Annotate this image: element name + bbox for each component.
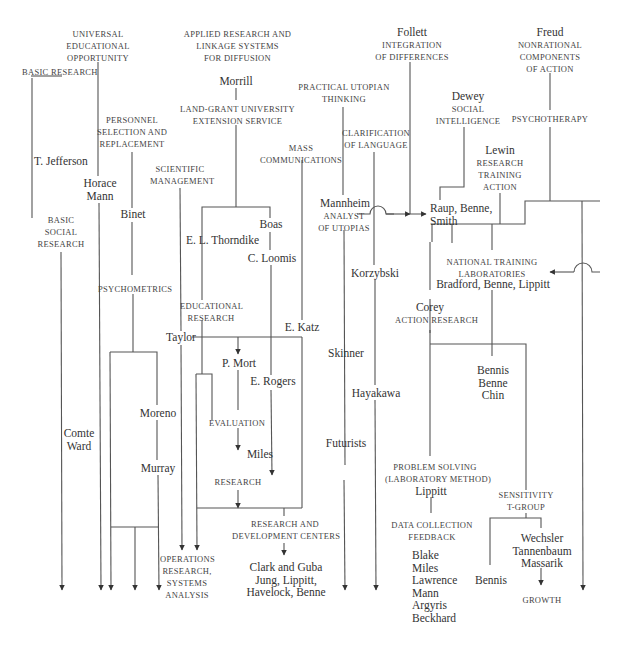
label-line: Sensitivity bbox=[496, 489, 556, 501]
label-line: Educational bbox=[180, 300, 242, 312]
label-line: Research bbox=[470, 157, 530, 169]
label-line: training bbox=[470, 169, 530, 181]
label-corey: Corey bbox=[410, 301, 450, 314]
label-e-katz: E. Katz bbox=[282, 321, 322, 334]
label-evaluation: Evaluation bbox=[206, 417, 268, 429]
label-line: research bbox=[36, 238, 86, 250]
label-line: Massarik bbox=[512, 557, 572, 570]
label-operations-research: Operations research, systems analysis bbox=[160, 553, 214, 601]
label-line: Land-grant university bbox=[180, 103, 295, 115]
label-line: Social bbox=[430, 103, 506, 115]
label-line: Universal bbox=[65, 28, 131, 40]
label-line: analysis bbox=[160, 589, 214, 601]
label-action-research: Action research bbox=[395, 314, 475, 326]
label-line: opportunity bbox=[65, 52, 131, 64]
label-horace-mann: Horace Mann bbox=[80, 177, 120, 202]
label-line: development centers bbox=[232, 530, 338, 542]
label-universal-educational-opportunity: Universal educational opportunity bbox=[65, 28, 131, 64]
label-line: replacement bbox=[96, 138, 168, 150]
label-wechsler-tannenbaum-massarik: Wechsler Tannenbaum Massarik bbox=[512, 532, 572, 570]
label-line: integration bbox=[370, 39, 454, 51]
label-line: linkage systems bbox=[180, 40, 295, 52]
label-lewin: Lewin bbox=[482, 144, 518, 157]
label-line: social bbox=[36, 226, 86, 238]
label-line: thinking bbox=[296, 93, 392, 105]
label-line: National training bbox=[440, 256, 544, 268]
label-line: Horace bbox=[80, 177, 120, 190]
label-line: systems bbox=[160, 577, 214, 589]
label-psychotherapy: Psychotherapy bbox=[511, 113, 589, 125]
label-national-training-laboratories: National training laboratories bbox=[440, 256, 544, 280]
label-ntl-names: Bradford, Benne, Lippitt bbox=[432, 278, 554, 291]
label-line: T-group bbox=[496, 501, 556, 513]
label-lewin-research-training-action: Research training action bbox=[470, 157, 530, 193]
label-social-intelligence: Social intelligence bbox=[430, 103, 506, 127]
label-line: Tannenbaum bbox=[512, 545, 572, 558]
label-line: Miles bbox=[412, 562, 462, 575]
label-nonrational: Nonrational components of action bbox=[510, 39, 590, 75]
label-line: Ward bbox=[63, 440, 95, 453]
label-line: educational bbox=[65, 40, 131, 52]
label-follett: Follett bbox=[392, 26, 432, 39]
label-c-loomis: C. Loomis bbox=[244, 252, 300, 265]
label-line: Applied research and bbox=[180, 28, 295, 40]
label-line: research, bbox=[160, 565, 214, 577]
label-line: Chin bbox=[474, 389, 512, 402]
label-line: action bbox=[470, 181, 530, 193]
label-skinner: Skinner bbox=[326, 347, 366, 360]
label-mass-communications: Mass communications bbox=[258, 142, 344, 166]
label-line: of utopias bbox=[315, 222, 373, 234]
label-basic-research: Basic research bbox=[22, 66, 98, 78]
label-sensitivity-t-group: Sensitivity T-group bbox=[496, 489, 556, 513]
label-line: Blake bbox=[412, 549, 462, 562]
label-e-l-thorndike: E. L. Thorndike bbox=[180, 234, 265, 247]
label-line: Lawrence bbox=[412, 574, 462, 587]
label-line: Beckhard bbox=[412, 612, 462, 625]
label-line: of differences bbox=[370, 51, 454, 63]
label-research: Research bbox=[210, 476, 266, 488]
label-line: feedback bbox=[390, 531, 474, 543]
label-lippitt: Lippitt bbox=[410, 485, 452, 498]
label-line: Personnel bbox=[96, 114, 168, 126]
label-binet: Binet bbox=[118, 208, 148, 221]
label-hayakawa: Hayakawa bbox=[350, 387, 402, 400]
label-analyst-of-utopias: analyst of utopias bbox=[315, 210, 373, 234]
label-line: (laboratory method) bbox=[385, 473, 485, 485]
label-line: Clark and Guba bbox=[246, 561, 326, 574]
label-boas: Boas bbox=[256, 218, 286, 231]
label-taylor: Taylor bbox=[164, 331, 198, 344]
label-line: Argyris bbox=[412, 599, 462, 612]
label-raup-benne-smith: Raup, Benne, Smith bbox=[430, 202, 500, 227]
label-rd-centers: Research and development centers bbox=[232, 518, 338, 542]
label-line: Raup, Benne, bbox=[430, 202, 500, 215]
label-bennis-benne-chin: Bennis Benne Chin bbox=[474, 364, 512, 402]
label-line: analyst bbox=[315, 210, 373, 222]
label-p-mort: P. Mort bbox=[218, 357, 260, 370]
label-line: Scientific bbox=[150, 163, 210, 175]
label-line: management bbox=[150, 175, 210, 187]
label-line: Mann bbox=[412, 587, 462, 600]
label-comte-ward: Comte Ward bbox=[63, 427, 95, 452]
label-integration: integration of differences bbox=[370, 39, 454, 63]
label-clark-guba-group: Clark and Guba Jung, Lippitt, Havelock, … bbox=[246, 561, 326, 599]
label-moreno: Moreno bbox=[136, 407, 180, 420]
label-basic-social-research: Basic social research bbox=[36, 214, 86, 250]
label-line: communications bbox=[258, 154, 344, 166]
label-line: Smith bbox=[430, 215, 500, 228]
label-practical-utopian: Practical utopian thinking bbox=[296, 81, 392, 105]
label-growth: Growth bbox=[520, 594, 564, 606]
label-scientific-management: Scientific management bbox=[150, 163, 210, 187]
label-e-rogers: E. Rogers bbox=[248, 375, 298, 388]
label-line: Practical utopian bbox=[296, 81, 392, 93]
label-line: Havelock, Benne bbox=[246, 586, 326, 599]
label-line: Research and bbox=[232, 518, 338, 530]
label-freud: Freud bbox=[530, 26, 570, 39]
label-line: Mass bbox=[258, 142, 344, 154]
label-line: intelligence bbox=[430, 115, 506, 127]
label-educational-research: Educational research bbox=[180, 300, 242, 324]
label-murray: Murray bbox=[136, 462, 180, 475]
label-clarification: Clarification of language bbox=[340, 127, 412, 151]
label-line: of language bbox=[340, 139, 412, 151]
label-line: Clarification bbox=[340, 127, 412, 139]
label-line: extension service bbox=[180, 115, 295, 127]
